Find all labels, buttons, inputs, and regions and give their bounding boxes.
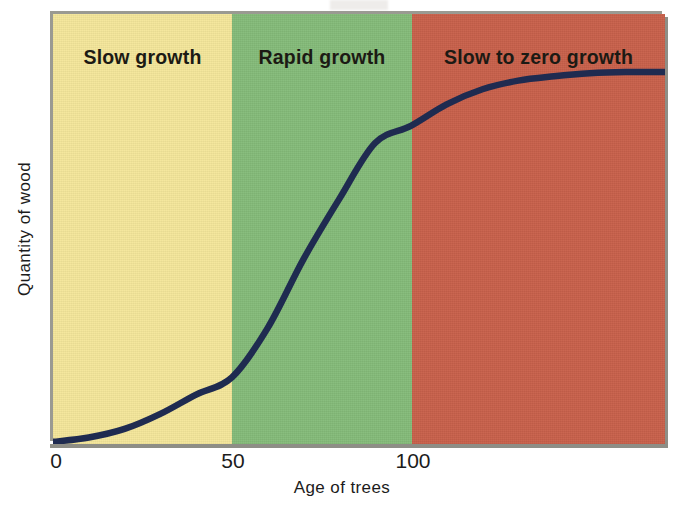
growth-curve-path: [53, 72, 665, 442]
scan-artifact: [330, 0, 388, 10]
growth-curve-figure: Slow growth Rapid growth Slow to zero gr…: [0, 0, 684, 513]
x-axis-line: [50, 444, 668, 448]
x-tick-label-50: 50: [221, 449, 244, 473]
x-axis-label: Age of trees: [0, 478, 684, 498]
plot-area: Slow growth Rapid growth Slow to zero gr…: [53, 14, 665, 444]
x-tick-label-0: 0: [50, 449, 62, 473]
x-tick-label-100: 100: [395, 449, 430, 473]
y-axis-label: Quantity of wood: [15, 162, 35, 296]
growth-curve: [53, 14, 665, 444]
y-axis-label-wrap: Quantity of wood: [0, 14, 50, 444]
